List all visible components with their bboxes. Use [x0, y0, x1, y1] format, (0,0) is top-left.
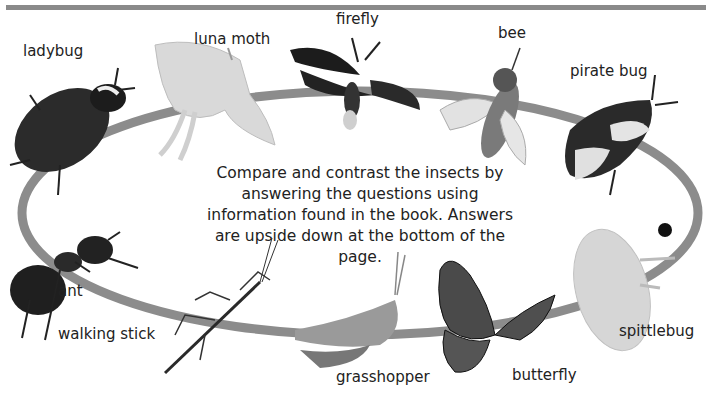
label-bee: bee: [498, 24, 526, 42]
label-firefly: firefly: [336, 10, 379, 28]
label-butterfly: butterfly: [512, 366, 577, 384]
firefly-icon: [290, 38, 420, 130]
instructions-text: Compare and contrast the insects by answ…: [205, 163, 515, 268]
butterfly-icon: [439, 261, 555, 372]
label-grasshopper: grasshopper: [336, 368, 430, 386]
label-walking-stick: walking stick: [58, 325, 155, 343]
bee-icon: [440, 48, 527, 165]
pirate-bug-icon: [565, 75, 678, 195]
label-luna-moth: luna moth: [194, 30, 270, 48]
label-pirate-bug: pirate bug: [570, 62, 647, 80]
label-ladybug: ladybug: [23, 42, 83, 60]
label-ant: ant: [58, 282, 83, 300]
grasshopper-icon: [295, 252, 405, 368]
label-spittlebug: spittlebug: [619, 322, 694, 340]
